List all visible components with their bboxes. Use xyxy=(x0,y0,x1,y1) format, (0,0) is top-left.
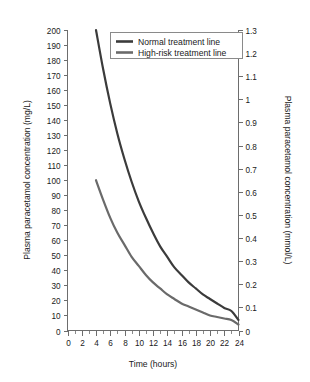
y-axis-left-tick-label: 140 xyxy=(47,117,61,126)
x-axis-tick-label: 10 xyxy=(135,339,145,348)
y-axis-right-tick-label: 0.6 xyxy=(246,189,258,198)
y-axis-left-title: Plasma paracetamol concentration (mg/L) xyxy=(22,100,32,260)
x-axis-tick-label: 14 xyxy=(163,339,173,348)
y-axis-left-tick-label: 60 xyxy=(51,237,61,246)
plot-area-background xyxy=(67,30,238,330)
y-axis-left-tick-label: 30 xyxy=(51,282,61,291)
y-axis-left-tick-label: 50 xyxy=(51,252,61,261)
x-axis-tick-label: 20 xyxy=(206,339,216,348)
x-axis-tick-label: 24 xyxy=(235,339,245,348)
y-axis-right-tick-label: 0.1 xyxy=(246,304,258,313)
y-axis-left-tick-label: 90 xyxy=(51,192,61,201)
y-axis-right-title: Plasma paracetamol concentration (mmol/L… xyxy=(283,96,293,265)
y-axis-left-tick-label: 180 xyxy=(47,57,61,66)
y-axis-left-tick-label: 20 xyxy=(51,297,61,306)
legend-label-0: Normal treatment line xyxy=(138,37,220,47)
y-axis-left-tick-label: 120 xyxy=(47,147,61,156)
y-axis-left-tick-label: 200 xyxy=(47,27,61,36)
y-axis-left-tick-label: 160 xyxy=(47,87,61,96)
chart-legend: Normal treatment lineHigh-risk treatment… xyxy=(111,33,243,59)
y-axis-right-tick-label: 0.3 xyxy=(246,258,258,267)
y-axis-left-tick-label: 0 xyxy=(56,328,61,337)
y-axis-right-ticks xyxy=(239,31,243,332)
y-axis-left-tick-label: 110 xyxy=(47,162,60,171)
y-axis-right-tick-label: 0.9 xyxy=(246,119,258,128)
y-axis-left-tick-label: 10 xyxy=(51,312,61,321)
y-axis-right-tick-label: 1 xyxy=(246,96,251,105)
y-axis-right-tick-label: 1.1 xyxy=(246,73,258,82)
x-axis-tick-label: 16 xyxy=(178,339,188,348)
x-axis-title: Time (hours) xyxy=(129,359,178,369)
y-axis-right-tick-label: 0 xyxy=(246,328,251,337)
y-axis-right-tick-label: 0.7 xyxy=(246,166,258,175)
x-axis-tick-labels: 024681012141618202224 xyxy=(66,339,244,348)
x-axis-tick-label: 22 xyxy=(220,339,230,348)
y-axis-left-tick-label: 170 xyxy=(47,72,61,81)
y-axis-left-tick-label: 190 xyxy=(47,42,61,51)
x-axis-tick-label: 6 xyxy=(108,339,113,348)
x-axis-ticks xyxy=(69,331,240,336)
y-axis-left-tick-labels: 0102030405060708090100110120130140150160… xyxy=(47,27,61,337)
y-axis-left-tick-label: 80 xyxy=(51,207,61,216)
x-axis-tick-label: 2 xyxy=(80,339,85,348)
y-axis-left-ticks xyxy=(64,31,68,332)
y-axis-right-tick-label: 0.5 xyxy=(246,212,258,221)
y-axis-right-tick-label: 0.4 xyxy=(246,235,258,244)
y-axis-right-tick-label: 0.2 xyxy=(246,281,258,290)
y-axis-left-tick-label: 100 xyxy=(47,177,61,186)
x-axis-tick-label: 0 xyxy=(66,339,71,348)
y-axis-left-tick-label: 70 xyxy=(51,222,61,231)
x-axis-tick-label: 18 xyxy=(192,339,202,348)
y-axis-left-tick-label: 130 xyxy=(47,132,61,141)
y-axis-right-tick-label: 0.8 xyxy=(246,143,258,152)
y-axis-right-tick-labels: 00.10.20.30.40.50.60.70.80.911.11.21.3 xyxy=(246,27,258,337)
chart-canvas: 0102030405060708090100110120130140150160… xyxy=(0,0,310,382)
x-axis-tick-label: 4 xyxy=(94,339,99,348)
y-axis-right-tick-label: 1.2 xyxy=(246,50,258,59)
y-axis-right-tick-label: 1.3 xyxy=(246,27,258,36)
legend-label-1: High-risk treatment line xyxy=(138,48,227,58)
paracetamol-nomogram-figure: 0102030405060708090100110120130140150160… xyxy=(0,0,310,382)
y-axis-left-tick-label: 150 xyxy=(47,102,61,111)
y-axis-left-tick-label: 40 xyxy=(51,267,61,276)
x-axis-tick-label: 12 xyxy=(149,339,159,348)
x-axis-tick-label: 8 xyxy=(123,339,128,348)
